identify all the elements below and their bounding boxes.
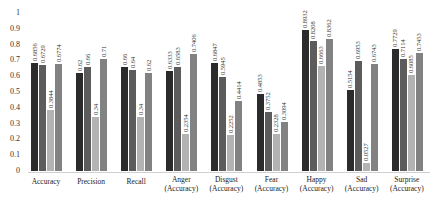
bar-value-label: 0.7729 — [391, 29, 398, 47]
x-category-label: Disgust(Accuracy) — [201, 175, 251, 193]
bar-value-label: 0.64 — [129, 57, 136, 68]
bar-value-label: 0.5945 — [219, 57, 226, 75]
bar — [318, 66, 325, 171]
y-tick-label: 0.8 — [0, 41, 20, 49]
x-category-label: Fear(Accuracy) — [247, 175, 297, 193]
bar — [281, 122, 288, 171]
bar — [145, 73, 152, 171]
bar — [76, 73, 83, 171]
x-category-label-line: Fear — [247, 175, 297, 184]
x-category-label-line: Sad — [337, 175, 387, 184]
bar-value-label: 0.6729 — [39, 45, 46, 63]
bar — [100, 59, 107, 171]
bar-value-label: 0.3844 — [47, 90, 54, 108]
bar — [371, 64, 378, 171]
y-tick-label: 0.2 — [0, 135, 20, 143]
y-tick-label: 0.9 — [0, 25, 20, 33]
x-category-label: Precision — [66, 177, 116, 186]
bar-value-label: 0.6856 — [31, 43, 38, 61]
y-tick-label: 1 — [0, 9, 20, 17]
bar — [302, 30, 309, 171]
bar-value-label: 0.7453 — [415, 33, 422, 51]
x-category-label-line: Precision — [66, 177, 116, 186]
x-category-label-line: (Accuracy) — [247, 184, 297, 193]
bar — [174, 67, 181, 171]
bar-value-label: 0.34 — [92, 104, 99, 115]
x-category-label-line: Anger — [156, 175, 206, 184]
bar — [347, 90, 354, 171]
x-category-label: Sad(Accuracy) — [337, 175, 387, 193]
bar — [47, 110, 54, 171]
bar — [400, 59, 407, 171]
bar — [211, 63, 218, 171]
bar-value-label: 0.5154 — [346, 70, 353, 88]
bar-value-label: 0.3094 — [280, 102, 287, 120]
bar-value-label: 0.2328 — [272, 114, 279, 132]
x-category-label: Surprise(Accuracy) — [382, 175, 432, 193]
bar — [363, 163, 370, 171]
bar — [182, 134, 189, 171]
bar-value-label: 0.2252 — [227, 116, 234, 134]
bar-value-label: 0.8932 — [301, 10, 308, 28]
bar — [121, 67, 128, 171]
x-category-label-line: (Accuracy) — [156, 184, 206, 193]
bar — [355, 61, 362, 171]
x-category-label-line: Disgust — [201, 175, 251, 184]
bar-value-label: 0.62 — [76, 60, 83, 71]
bar-value-label: 0.8362 — [325, 19, 332, 37]
bar — [39, 65, 46, 171]
bar-value-label: 0.6953 — [354, 41, 361, 59]
bar — [227, 135, 234, 171]
bar-value-label: 0.6333 — [166, 51, 173, 69]
bar-value-label: 0.6743 — [370, 45, 377, 63]
x-category-label-line: (Accuracy) — [292, 184, 342, 193]
x-category-label-line: (Accuracy) — [382, 184, 432, 193]
bar — [129, 70, 136, 171]
bar — [310, 41, 317, 171]
bar-value-label: 0.3752 — [264, 92, 271, 110]
y-tick-label: 0 — [0, 167, 20, 175]
bar — [265, 112, 272, 171]
y-tick-label: 0.3 — [0, 120, 20, 128]
bar — [273, 134, 280, 171]
bar — [190, 54, 197, 171]
bar — [137, 117, 144, 171]
y-tick-label: 0.1 — [0, 151, 20, 159]
y-tick-label: 0.4 — [0, 104, 20, 112]
x-category-label-line: Happy — [292, 175, 342, 184]
bar-value-label: 0.6583 — [174, 47, 181, 65]
y-tick-label: 0.5 — [0, 88, 20, 96]
x-axis-line — [28, 172, 430, 173]
bar — [31, 63, 38, 171]
y-tick-label: 0.7 — [0, 56, 20, 64]
x-category-label: Happy(Accuracy) — [292, 175, 342, 193]
x-category-label-line: (Accuracy) — [337, 184, 387, 193]
bar-value-label: 0.71 — [100, 45, 107, 56]
x-category-label-line: (Accuracy) — [201, 184, 251, 193]
y-tick-label: 0.6 — [0, 72, 20, 80]
bar-value-label: 0.7406 — [190, 34, 197, 52]
x-category-label: Recall — [111, 177, 161, 186]
bar — [166, 71, 173, 171]
bar-value-label: 0.66 — [121, 53, 128, 64]
grouped-bar-chart: 00.10.20.30.40.50.60.70.80.910.68560.672… — [0, 0, 432, 200]
bar-value-label: 0.34 — [137, 104, 144, 115]
bar-value-label: 0.6085 — [407, 55, 414, 73]
bar-value-label: 0.6847 — [211, 43, 218, 61]
bar-value-label: 0.8208 — [309, 21, 316, 39]
x-category-label-line: Accuracy — [21, 177, 71, 186]
bar — [92, 117, 99, 171]
bar — [235, 101, 242, 171]
bar — [408, 75, 415, 171]
bar — [416, 53, 423, 171]
bar-value-label: 0.0527 — [362, 143, 369, 161]
bar — [219, 77, 226, 171]
x-category-label-line: Surprise — [382, 175, 432, 184]
x-category-label: Anger(Accuracy) — [156, 175, 206, 193]
bar-value-label: 0.62 — [145, 60, 152, 71]
bar-value-label: 0.6663 — [317, 46, 324, 64]
bar — [392, 49, 399, 171]
bar — [257, 94, 264, 171]
bar-value-label: 0.2354 — [182, 114, 189, 132]
bar — [55, 64, 62, 171]
